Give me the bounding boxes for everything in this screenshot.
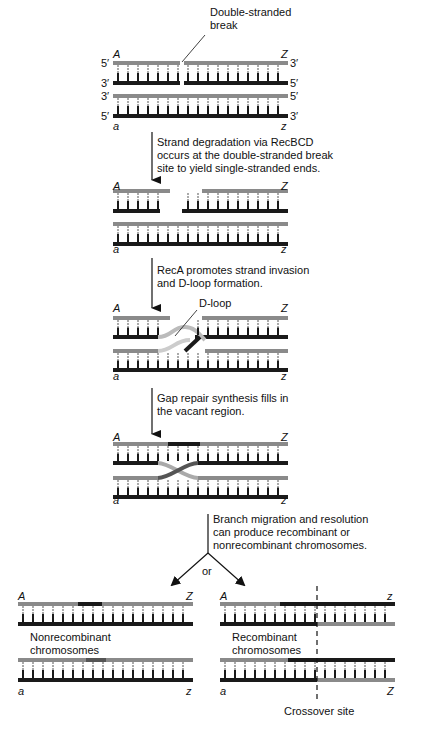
end-label: 5′ [290, 90, 298, 103]
end-label: 3′ [101, 90, 109, 103]
locus-z: z [281, 120, 287, 133]
end-label: 5′ [101, 110, 109, 123]
dsb-label: Double-strandedbreak [210, 6, 291, 32]
crossover-label: Crossover site [284, 705, 354, 718]
step-3-text: Gap repair synthesis fills inthe vacant … [157, 392, 288, 418]
end-label: 3′ [290, 57, 298, 70]
locus-Z: Z [281, 180, 288, 193]
locus-z: z [186, 685, 192, 698]
locus-z: z [387, 590, 393, 603]
locus-A: A [113, 48, 120, 61]
locus-A: A [113, 431, 120, 444]
end-label: 3′ [101, 77, 109, 90]
end-label: 5′ [101, 57, 109, 70]
locus-z: z [281, 494, 287, 507]
locus-A: A [113, 180, 120, 193]
locus-z: z [281, 370, 287, 383]
nonrecombinant-label: Nonrecombinantchromosomes [30, 631, 111, 657]
locus-Z: Z [281, 302, 288, 315]
locus-a: a [113, 120, 119, 133]
step-4-text: Branch migration and resolutioncan produ… [213, 513, 368, 552]
locus-Z: Z [186, 590, 193, 603]
step-2-text: RecA promotes strand invasionand D-loop … [157, 264, 309, 290]
locus-a: a [220, 685, 226, 698]
locus-a: a [113, 243, 119, 256]
end-label: 5′ [290, 77, 298, 90]
locus-z: z [281, 243, 287, 256]
step-1-text: Strand degradation via RecBCDoccurs at t… [157, 136, 333, 175]
locus-Z: Z [281, 431, 288, 444]
locus-Z: Z [281, 48, 288, 61]
or-label: or [202, 565, 212, 578]
locus-a: a [113, 370, 119, 383]
locus-Z: Z [387, 685, 394, 698]
end-label: 3′ [290, 110, 298, 123]
locus-A: A [18, 590, 25, 603]
locus-A: A [113, 302, 120, 315]
recombinant-label: Recombinantchromosomes [232, 631, 301, 657]
locus-a: a [18, 685, 24, 698]
dloop-label: D-loop [199, 297, 231, 310]
locus-a: a [113, 494, 119, 507]
locus-A: A [220, 590, 227, 603]
